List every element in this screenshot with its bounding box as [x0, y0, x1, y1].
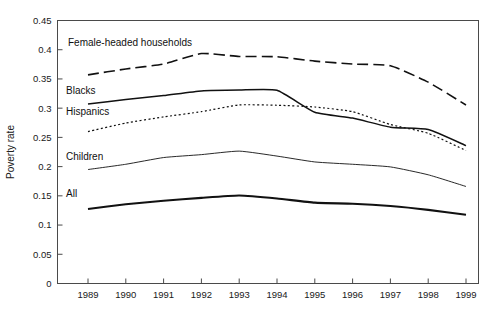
x-tick-label: 1994 [266, 289, 287, 300]
chart-canvas: 00.050.10.150.20.250.30.350.40.45 198919… [0, 0, 492, 312]
x-tick-label: 1995 [304, 289, 325, 300]
y-tick-label: 0.05 [33, 249, 52, 260]
x-tick-label: 1998 [418, 289, 439, 300]
y-axis-title: Poverty rate [5, 125, 16, 179]
data-series-group [88, 53, 466, 214]
x-tick-label: 1993 [229, 289, 250, 300]
series-line-all [88, 196, 466, 215]
series-label-children: Children [66, 151, 103, 162]
y-tick-label: 0.25 [33, 132, 52, 143]
y-tick-label: 0 [46, 278, 51, 289]
series-label-hispanics: Hispanics [66, 106, 109, 117]
y-tick-label: 0.15 [33, 190, 52, 201]
series-label-all: All [66, 188, 77, 199]
x-tick-label: 1999 [455, 289, 476, 300]
series-label-female-headed-households: Female-headed households [68, 37, 192, 48]
series-label-blacks: Blacks [66, 85, 95, 96]
y-tick-label: 0.35 [33, 73, 52, 84]
x-tick-label: 1996 [342, 289, 363, 300]
x-tick-label: 1989 [77, 289, 98, 300]
y-tick-label: 0.2 [38, 161, 51, 172]
plot-border [58, 21, 479, 284]
series-line-children [88, 151, 466, 186]
y-tick-label: 0.4 [38, 44, 51, 55]
y-tick-label: 0.1 [38, 219, 51, 230]
y-axis-ticks: 00.050.10.150.20.250.30.350.40.45 [33, 15, 63, 289]
y-tick-label: 0.3 [38, 103, 51, 114]
series-line-blacks [88, 89, 466, 145]
x-tick-label: 1997 [380, 289, 401, 300]
x-tick-label: 1991 [153, 289, 174, 300]
x-tick-label: 1990 [115, 289, 136, 300]
x-tick-label: 1992 [191, 289, 212, 300]
poverty-rate-chart-figure: 00.050.10.150.20.250.30.350.40.45 198919… [0, 0, 492, 312]
y-tick-label: 0.45 [33, 15, 52, 26]
plot-frame [58, 21, 479, 284]
x-axis-ticks: 1989199019911992199319941995199619971998… [77, 279, 476, 300]
